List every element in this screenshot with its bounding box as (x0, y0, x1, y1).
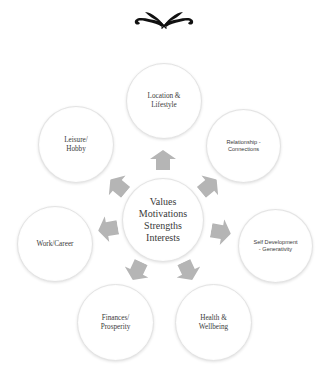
arrow-lower-right-icon (172, 256, 204, 285)
node-label: Location & Lifestyle (148, 92, 181, 109)
node-label: Health & Wellbeing (199, 314, 228, 331)
arrow-lower-left-icon (121, 256, 153, 285)
node-label: Work/Career (37, 240, 74, 249)
node-location-lifestyle: Location & Lifestyle (126, 63, 202, 139)
node-label: Self Development - Generativity (253, 239, 297, 252)
node-health-wellbeing: Health & Wellbeing (175, 284, 252, 361)
floral-divider-icon (131, 7, 197, 29)
arrow-right-icon (209, 217, 233, 246)
node-leisure-hobby: Leisure/ Hobby (38, 106, 114, 183)
node-center-values: Values Motivations Strengths Interests (122, 178, 204, 262)
arrow-left-icon (96, 214, 120, 243)
node-relationship-connections: Relationship - Connections (206, 109, 281, 183)
node-label: Relationship - Connections (226, 139, 260, 152)
node-label: Finances/ Prosperity (101, 314, 131, 331)
node-finances-prosperity: Finances/ Prosperity (77, 284, 154, 361)
arrow-up-icon (150, 150, 176, 170)
node-self-development-generativity: Self Development - Generativity (238, 209, 313, 283)
node-work-career: Work/Career (17, 206, 93, 282)
center-label: Values Motivations Strengths Interests (139, 196, 187, 244)
node-label: Leisure/ Hobby (64, 136, 88, 153)
